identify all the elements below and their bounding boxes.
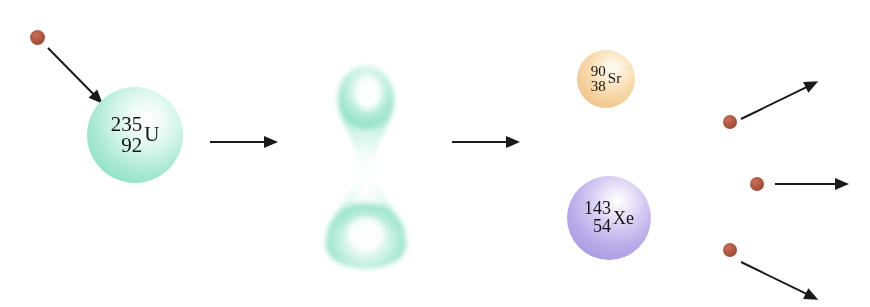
emitted-neutron-arrow-up xyxy=(738,74,824,124)
xenon-143-nucleus: 143 54 Xe xyxy=(567,176,651,260)
incident-neutron-arrow xyxy=(44,44,109,109)
fission-diagram: 235 92 U xyxy=(0,0,870,307)
xenon-symbol: Xe xyxy=(613,209,634,227)
emitted-neutron-3 xyxy=(723,243,737,257)
uranium-atomic-number: 92 xyxy=(111,135,143,156)
uranium-235-label: 235 92 U xyxy=(87,114,183,155)
uranium-235-nucleus: 235 92 U xyxy=(87,87,183,183)
emitted-neutron-2 xyxy=(750,177,764,191)
xenon-mass-number: 143 xyxy=(584,200,611,218)
strontium-symbol: Sr xyxy=(608,72,621,87)
strontium-90-label: 90 38 Sr xyxy=(577,64,635,93)
deformed-compound-nucleus xyxy=(318,58,414,274)
strontium-mass-number: 90 xyxy=(591,64,606,79)
strontium-90-nucleus: 90 38 Sr xyxy=(577,50,635,108)
emitted-neutron-1 xyxy=(723,115,737,129)
incident-neutron xyxy=(30,30,45,45)
strontium-atomic-number: 38 xyxy=(591,79,606,94)
fission-step-arrow-2 xyxy=(452,136,522,148)
uranium-symbol: U xyxy=(144,125,159,146)
uranium-mass-number: 235 xyxy=(111,114,143,135)
xenon-143-label: 143 54 Xe xyxy=(567,200,651,235)
xenon-atomic-number: 54 xyxy=(584,218,611,236)
emitted-neutron-arrow-right xyxy=(775,178,853,190)
fission-step-arrow-1 xyxy=(210,136,280,148)
emitted-neutron-arrow-down xyxy=(738,257,824,307)
